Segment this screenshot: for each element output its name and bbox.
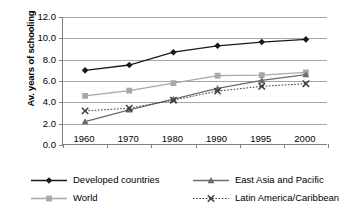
data-point-diamond [214,43,221,50]
data-point-square [171,80,177,86]
data-point-diamond [170,49,177,56]
legend-label: East Asia and Pacific [235,175,324,185]
y-tick-label: 6.0 [16,76,56,86]
chart-legend: Developed countriesEast Asia and Pacific… [30,171,340,207]
data-point-diamond [82,67,89,74]
data-point-diamond [258,39,265,46]
series-line [85,39,306,70]
legend-swatch-triangle [192,175,230,186]
series-line [85,75,306,122]
line-chart: Av. years of schooling 0.02.04.06.08.010… [0,0,350,213]
legend-swatch-square [30,193,68,204]
legend-swatch-cross [192,193,230,204]
legend-item[interactable]: Developed countries [30,175,192,186]
legend-item[interactable]: East Asia and Pacific [192,175,340,186]
series-developed-countries [82,36,309,74]
x-tick-mark [328,144,329,148]
y-tick-label: 4.0 [16,98,56,108]
x-tick-label: 1990 [192,134,242,144]
series-line [85,84,306,111]
y-tick-label: 10.0 [16,34,56,44]
data-point-square [126,88,132,94]
data-point-diamond [303,36,310,43]
x-tick-label: 1980 [147,134,197,144]
data-point-square [215,73,221,79]
data-point-square [82,93,88,99]
y-tick-label: 8.0 [16,55,56,65]
legend-item[interactable]: Latin America/Caribbean [192,193,340,204]
y-tick-label: 0.0 [16,140,56,150]
plot-area [62,17,327,145]
x-tick-label: 1970 [103,134,153,144]
data-point-cross [303,80,309,86]
legend-label: Developed countries [73,175,160,185]
y-tick-label: 12.0 [16,12,56,22]
data-point-diamond [126,62,133,69]
legend-swatch-diamond [30,175,68,186]
series-line [85,72,306,95]
x-tick-label: 1995 [236,134,286,144]
data-point-diamond [46,177,53,184]
y-tick-label: 2.0 [16,119,56,129]
series-latin-america-caribbean [82,80,309,114]
x-tick-label: 2000 [280,134,330,144]
x-tick-label: 1960 [59,134,109,144]
data-point-cross [82,108,88,114]
legend-item[interactable]: World [30,193,192,204]
legend-label: Latin America/Caribbean [235,193,339,203]
legend-label: World [73,193,98,203]
data-point-square [46,195,52,201]
series-layer [63,17,328,145]
